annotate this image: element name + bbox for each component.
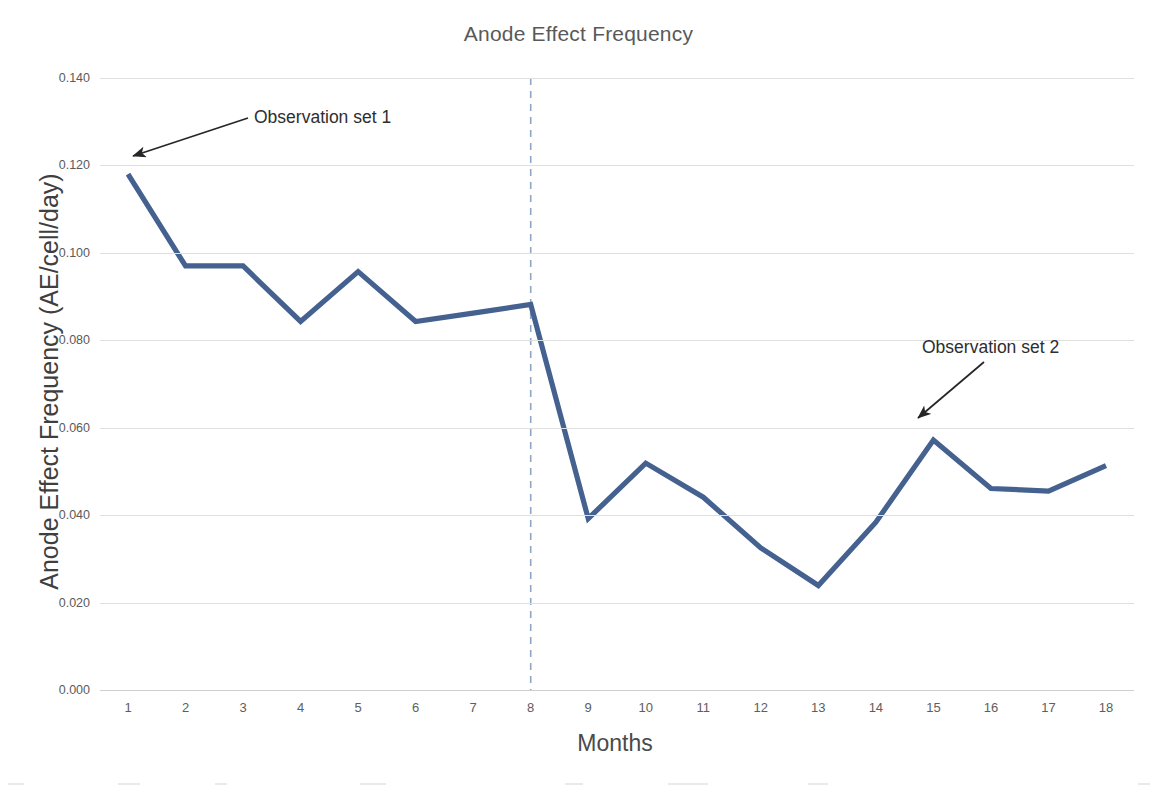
series-line-anode-effect-frequency (128, 174, 1106, 585)
x-axis-tick-label: 11 (683, 700, 723, 715)
x-axis-title: Months (100, 730, 1130, 757)
x-axis-tick-label: 14 (856, 700, 896, 715)
x-axis-tick-label: 8 (511, 700, 551, 715)
annotation-label-observation-set-1: Observation set 1 (254, 107, 391, 128)
x-axis-tick-label: 7 (453, 700, 493, 715)
y-axis-tick-label: 0.140 (20, 71, 90, 85)
x-axis-tick-label: 17 (1028, 700, 1068, 715)
x-axis-tick-label: 12 (741, 700, 781, 715)
gridline (100, 78, 1134, 79)
x-axis-tick-label: 2 (166, 700, 206, 715)
y-axis-tick-label: 0.060 (20, 421, 90, 435)
plot-area: 0.0000.0200.0400.0600.0800.1000.1200.140 (100, 78, 1134, 690)
gridline (100, 165, 1134, 166)
x-axis-tick-label: 4 (281, 700, 321, 715)
x-axis-tick-label: 18 (1086, 700, 1126, 715)
series-line-chart (100, 78, 1134, 690)
y-axis-tick-label: 0.080 (20, 333, 90, 347)
x-axis-tick-label: 15 (913, 700, 953, 715)
gridline (100, 253, 1134, 254)
x-axis-tick-labels: 123456789101112131415161718 (100, 700, 1134, 720)
y-axis-tick-label: 0.100 (20, 246, 90, 260)
x-axis-tick-label: 1 (108, 700, 148, 715)
chart-figure: Anode Effect Frequency Anode Effect Freq… (0, 0, 1157, 786)
x-axis-tick-label: 16 (971, 700, 1011, 715)
scan-artifacts (0, 776, 1157, 786)
x-axis-tick-label: 10 (626, 700, 666, 715)
x-axis-tick-label: 5 (338, 700, 378, 715)
y-axis-tick-label: 0.120 (20, 158, 90, 172)
x-axis-tick-label: 13 (798, 700, 838, 715)
x-axis-tick-label: 6 (396, 700, 436, 715)
gridline (100, 428, 1134, 429)
chart-title: Anode Effect Frequency (0, 22, 1157, 46)
x-axis-tick-label: 3 (223, 700, 263, 715)
y-axis-tick-label: 0.020 (20, 596, 90, 610)
gridline (100, 515, 1134, 516)
gridline (100, 603, 1134, 604)
x-axis-tick-label: 9 (568, 700, 608, 715)
annotation-label-observation-set-2: Observation set 2 (922, 337, 1059, 358)
y-axis-tick-label: 0.040 (20, 508, 90, 522)
y-axis-tick-label: 0.000 (20, 683, 90, 697)
gridline (100, 690, 1134, 691)
